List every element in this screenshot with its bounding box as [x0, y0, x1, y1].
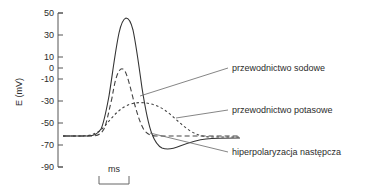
y-axis-ticks [58, 13, 63, 167]
membrane-potential-curve [63, 18, 240, 149]
annotation-sodium-label: przewodnictwo sodowe [232, 63, 325, 73]
action-potential-figure: 50 30 10 0 -10 -30 -50 -70 -90 E (mV) pr… [0, 0, 369, 192]
chart-canvas: 50 30 10 0 -10 -30 -50 -70 -90 E (mV) pr… [0, 0, 369, 192]
tick-label-10: 10 [44, 52, 54, 62]
y-axis-title: E (mV) [14, 78, 24, 106]
potassium-leader-line [176, 110, 228, 118]
tick-label-neg30: -30 [41, 96, 54, 106]
sodium-leader-line [140, 68, 228, 96]
tick-label-neg90: -90 [41, 162, 54, 172]
tick-label-neg70: -70 [41, 140, 54, 150]
tick-label-neg50: -50 [41, 118, 54, 128]
annotation-potassium-label: przewodnictwo potasowe [232, 105, 333, 115]
tick-label-50: 50 [44, 8, 54, 18]
time-scale-label: ms [108, 164, 120, 174]
tick-label-neg10: -10 [41, 74, 54, 84]
y-axis-tick-labels: 50 30 10 0 -10 -30 -50 -70 -90 [41, 8, 54, 172]
y-axis-spine [58, 13, 63, 167]
sodium-conductance-curve [63, 69, 240, 136]
annotation-hyperpolarization-label: hiperpolaryzacja następcza [232, 147, 341, 157]
time-scale-bar [99, 176, 129, 184]
tick-label-30: 30 [44, 30, 54, 40]
tick-label-0: 0 [49, 63, 54, 73]
